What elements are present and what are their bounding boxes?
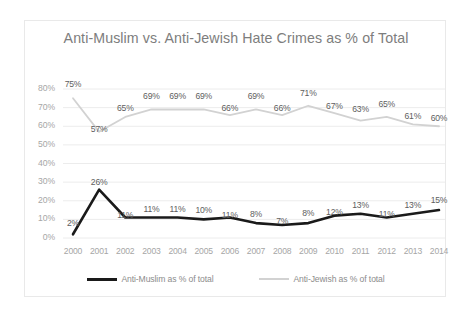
- data-label: 12%: [321, 207, 347, 217]
- data-label: 57%: [86, 124, 112, 134]
- x-axis-tick-label: 2009: [295, 246, 321, 256]
- data-label: 8%: [295, 208, 321, 218]
- data-label: 11%: [165, 204, 191, 214]
- x-axis-tick-label: 2000: [60, 246, 86, 256]
- x-axis-tick-label: 2012: [374, 246, 400, 256]
- data-label: 11%: [138, 204, 164, 214]
- data-label: 65%: [112, 103, 138, 113]
- data-label: 8%: [243, 209, 269, 219]
- y-axis-tick-label: 20%: [29, 195, 55, 205]
- x-axis-tick-label: 2003: [138, 246, 164, 256]
- legend-label-anti-muslim: Anti-Muslim as % of total: [121, 274, 213, 284]
- x-axis-tick-label: 2005: [191, 246, 217, 256]
- y-axis-tick-label: 30%: [29, 176, 55, 186]
- data-label: 69%: [165, 91, 191, 101]
- data-label: 26%: [86, 177, 112, 187]
- data-label: 69%: [191, 91, 217, 101]
- data-label: 7%: [269, 216, 295, 226]
- legend-line-swatch-anti-jewish: [259, 278, 289, 280]
- y-axis-tick-label: 10%: [29, 213, 55, 223]
- data-label: 66%: [217, 103, 243, 113]
- data-label: 65%: [374, 99, 400, 109]
- data-label: 71%: [295, 88, 321, 98]
- y-axis-tick-label: 0%: [29, 232, 55, 242]
- y-axis-tick-label: 70%: [29, 102, 55, 112]
- legend-line-swatch-anti-muslim: [87, 278, 117, 281]
- x-axis-tick-label: 2006: [217, 246, 243, 256]
- data-label: 2%: [60, 218, 86, 228]
- data-label: 11%: [374, 209, 400, 219]
- data-label: 11%: [112, 210, 138, 220]
- data-label: 67%: [321, 101, 347, 111]
- data-label: 15%: [426, 195, 452, 205]
- x-axis-tick-label: 2007: [243, 246, 269, 256]
- y-axis-tick-label: 60%: [29, 120, 55, 130]
- legend-item-anti-muslim[interactable]: Anti-Muslim as % of total: [87, 274, 213, 284]
- x-axis-tick-label: 2011: [348, 246, 374, 256]
- x-axis-tick-label: 2008: [269, 246, 295, 256]
- data-label: 61%: [400, 111, 426, 121]
- y-axis-tick-label: 80%: [29, 83, 55, 93]
- data-label: 13%: [348, 200, 374, 210]
- plot-area: 80%70%60%50%40%30%20%10%0% 2000200120022…: [25, 21, 447, 298]
- data-label: 63%: [348, 104, 374, 114]
- chart-legend: Anti-Muslim as % of total Anti-Jewish as…: [25, 268, 447, 290]
- x-axis-tick-label: 2004: [165, 246, 191, 256]
- x-axis-tick-label: 2010: [321, 246, 347, 256]
- data-label: 66%: [269, 103, 295, 113]
- data-label: 13%: [400, 200, 426, 210]
- data-label: 69%: [243, 91, 269, 101]
- legend-item-anti-jewish[interactable]: Anti-Jewish as % of total: [259, 274, 384, 284]
- data-label: 69%: [138, 91, 164, 101]
- x-axis-tick-label: 2002: [112, 246, 138, 256]
- data-label: 60%: [426, 113, 452, 123]
- y-axis-tick-label: 50%: [29, 139, 55, 149]
- data-label: 75%: [60, 79, 86, 89]
- x-axis-tick-label: 2014: [426, 246, 452, 256]
- x-axis-tick-label: 2001: [86, 246, 112, 256]
- data-label: 10%: [191, 205, 217, 215]
- data-label: 11%: [217, 210, 243, 220]
- y-axis-tick-label: 40%: [29, 158, 55, 168]
- legend-label-anti-jewish: Anti-Jewish as % of total: [293, 274, 384, 284]
- chart-container: Anti-Muslim vs. Anti-Jewish Hate Crimes …: [24, 20, 446, 297]
- x-axis-tick-label: 2013: [400, 246, 426, 256]
- chart-svg: [25, 21, 447, 298]
